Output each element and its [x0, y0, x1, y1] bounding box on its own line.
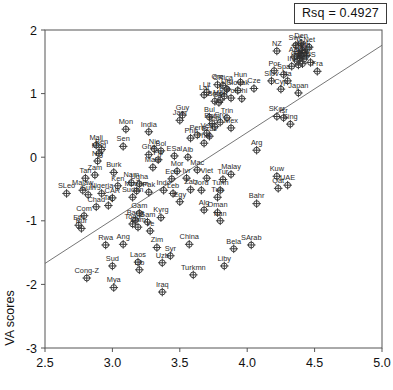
- x-tick-label: 4.0: [239, 356, 256, 370]
- data-point-marker: [158, 288, 167, 297]
- data-point-label: Rwa: [98, 233, 114, 242]
- data-point-label: Nig: [92, 149, 103, 158]
- data-point-marker: [294, 89, 303, 98]
- data-point-label: Chad: [87, 195, 105, 204]
- tick-labels-layer: 210-1-2-32.53.03.54.04.55.0VA scores: [3, 24, 391, 371]
- data-point-label: China: [180, 232, 200, 241]
- data-point-label: Sud: [106, 254, 119, 263]
- data-point-marker: [92, 203, 101, 212]
- data-point-marker: [135, 265, 144, 274]
- data-point-label: Sen: [117, 134, 130, 143]
- data-point-marker: [283, 181, 292, 190]
- data-point-marker: [227, 94, 236, 103]
- data-point-marker: [216, 217, 225, 226]
- data-point-marker: [82, 274, 91, 283]
- data-point-marker: [252, 146, 261, 155]
- data-point-label: Fra: [312, 59, 324, 68]
- data-point-label: Bahr: [249, 191, 265, 200]
- x-tick-label: 3.0: [104, 356, 121, 370]
- data-point-label: Mex: [224, 116, 238, 125]
- data-point-marker: [149, 163, 158, 172]
- data-point-label: Taj: [104, 193, 114, 202]
- data-point-marker: [252, 199, 261, 208]
- y-tick-label: -1: [26, 214, 37, 228]
- data-point-label: Phil: [184, 126, 197, 135]
- data-point-label: Cong-Z: [74, 266, 99, 275]
- data-point-marker: [286, 120, 295, 129]
- data-point-marker: [101, 241, 110, 250]
- data-point-label: Alb: [183, 145, 194, 154]
- data-point-label: Com: [76, 204, 92, 213]
- data-point-label: India: [141, 120, 158, 129]
- data-point-label: Thai: [197, 131, 212, 140]
- data-point-label: Kyrg: [153, 205, 168, 214]
- data-point-label: SArab: [241, 233, 262, 242]
- data-point-label: Turkmn: [181, 263, 206, 272]
- data-point-marker: [119, 240, 128, 249]
- data-point-label: Sudan: [122, 185, 143, 194]
- data-point-marker: [62, 189, 71, 198]
- data-point-label: Ivr: [182, 166, 191, 175]
- y-tick-label: 1: [30, 87, 37, 101]
- y-tick-label: 0: [30, 151, 37, 165]
- data-point-label: Ye: [146, 219, 154, 228]
- data-point-label: Mala: [145, 155, 162, 164]
- data-point-marker: [200, 139, 209, 148]
- data-point-label: Bol: [156, 139, 167, 148]
- data-point-label: UAE: [280, 173, 295, 182]
- data-point-label: NZ: [272, 39, 282, 48]
- data-point-label: Cyp: [274, 77, 287, 86]
- data-point-marker: [158, 258, 167, 267]
- data-point-label: Mya: [107, 275, 122, 284]
- data-point-marker: [277, 85, 286, 94]
- data-point-label: Jam: [173, 108, 187, 117]
- data-point-marker: [313, 67, 322, 76]
- data-point-marker: [144, 188, 153, 197]
- data-point-marker: [104, 201, 113, 210]
- data-point-label: Ang: [117, 232, 130, 241]
- data-point-label: Ecu: [165, 167, 178, 176]
- data-point-label: Cam: [130, 215, 146, 224]
- data-point-label: Iran: [214, 209, 227, 218]
- data-point-marker: [189, 271, 198, 280]
- data-point-marker: [146, 227, 155, 236]
- data-point-label: Sing: [283, 112, 298, 121]
- data-point-label: Kuw: [270, 164, 285, 173]
- data-point-label: Tur: [218, 167, 229, 176]
- x-tick-label: 2.5: [36, 356, 53, 370]
- data-point-marker: [176, 197, 185, 206]
- data-point-label: Liby: [218, 254, 232, 263]
- data-point-marker: [250, 84, 259, 93]
- data-point-marker: [122, 125, 131, 134]
- data-point-label: Mon: [119, 117, 133, 126]
- data-point-label: Tun: [211, 185, 223, 194]
- y-tick-label: 2: [30, 24, 37, 38]
- y-tick-label: -3: [26, 342, 37, 356]
- data-point-marker: [274, 184, 283, 193]
- data-point-label: Chi: [236, 86, 247, 95]
- y-tick-label: -2: [26, 278, 37, 292]
- data-point-marker: [109, 283, 118, 292]
- data-point-label: Viet: [200, 166, 213, 175]
- data-point-marker: [157, 213, 166, 222]
- data-point-label: Jord: [194, 178, 208, 187]
- data-point-marker: [229, 244, 238, 253]
- data-point-label: Uzb: [156, 251, 169, 260]
- data-point-label: Iraq: [156, 280, 169, 289]
- data-point-label: SAf: [213, 90, 226, 99]
- data-point-label: Arg: [251, 138, 263, 147]
- data-point-label: Zim: [151, 235, 163, 244]
- data-point-marker: [119, 142, 128, 151]
- data-point-marker: [238, 94, 247, 103]
- plot-canvas: DenSweNetNZNorFinSwiCanLuxAutAusIceGerUS…: [0, 0, 393, 390]
- data-point-marker: [273, 47, 282, 56]
- data-point-marker: [247, 241, 256, 250]
- data-point-label: Japan: [288, 81, 308, 90]
- data-point-marker: [197, 186, 206, 195]
- data-point-marker: [227, 124, 236, 133]
- data-point-marker: [144, 127, 153, 136]
- data-point-label: Pak: [142, 180, 155, 189]
- scatter-plot-figure: Rsq = 0.4927 DenSweNetNZNorFinSwiCanLuxA…: [0, 0, 393, 390]
- data-point-label: Zam: [87, 163, 102, 172]
- data-point-label: Egy: [173, 190, 186, 199]
